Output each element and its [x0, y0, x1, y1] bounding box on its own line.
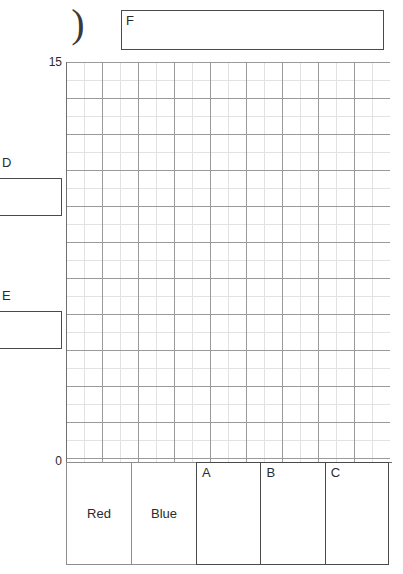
- category-table: Red Blue A B C: [66, 462, 393, 565]
- answer-box-f-label: F: [126, 14, 134, 28]
- answer-box-a-label: A: [197, 463, 211, 480]
- answer-box-b-label: B: [261, 463, 275, 480]
- answer-box-d-label: D: [2, 156, 11, 170]
- answer-box-e-label: E: [2, 289, 11, 303]
- answer-box-d[interactable]: [0, 178, 62, 216]
- closing-paren-glyph: ): [68, 2, 88, 48]
- answer-box-f[interactable]: [121, 10, 384, 50]
- answer-box-c[interactable]: C: [325, 462, 389, 565]
- table-cell-blue-label: Blue: [151, 506, 177, 521]
- answer-box-c-label: C: [326, 463, 340, 480]
- table-cell-red-label: Red: [87, 506, 111, 521]
- table-cell-red: Red: [66, 462, 132, 565]
- worksheet-page: ) F D E 15 0 Red Blue A B C: [0, 0, 403, 574]
- graph-grid[interactable]: [66, 62, 390, 462]
- y-axis-tick-top: 15: [38, 56, 62, 69]
- answer-box-a[interactable]: A: [196, 462, 262, 565]
- grid-top-edge: [66, 62, 390, 63]
- y-axis-line: [66, 62, 67, 463]
- y-axis-tick-bottom: 0: [38, 455, 62, 468]
- answer-box-b[interactable]: B: [260, 462, 326, 565]
- table-cell-blue: Blue: [131, 462, 197, 565]
- answer-box-e[interactable]: [0, 311, 62, 349]
